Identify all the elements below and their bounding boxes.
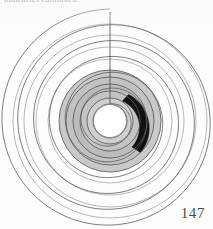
spiral-chart-svg [0, 0, 213, 229]
spiral-figure [0, 0, 213, 229]
page-number: 147 [181, 205, 205, 221]
spiral-hub [94, 105, 127, 138]
scanned-page: industries continued. [0, 0, 213, 229]
